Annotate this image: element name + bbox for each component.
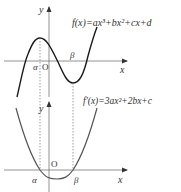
bottom-x-label: x	[117, 174, 123, 185]
top-x-label: x	[119, 64, 125, 75]
derivative-diagram: y x α O β f(x)=ax³+bx²+cx+d y x O α β f′…	[0, 0, 181, 192]
top-beta-label: β	[69, 50, 75, 60]
top-graph: y x α O β f(x)=ax³+bx²+cx+d	[4, 4, 153, 97]
top-function-label: f(x)=ax³+bx²+cx+d	[72, 17, 153, 29]
bottom-graph: y x O α β f′(x)=3ax²+2bx+c	[4, 96, 153, 192]
bottom-beta-label: β	[73, 175, 79, 185]
cubic-curve	[17, 27, 97, 97]
bottom-origin-label: O	[51, 159, 58, 169]
bottom-y-label: y	[38, 103, 44, 114]
top-origin-label: O	[42, 62, 49, 72]
top-y-label: y	[38, 4, 44, 15]
bottom-alpha-label: α	[32, 175, 37, 185]
bottom-function-label: f′(x)=3ax²+2bx+c	[83, 96, 153, 107]
top-alpha-label: α	[33, 62, 38, 72]
